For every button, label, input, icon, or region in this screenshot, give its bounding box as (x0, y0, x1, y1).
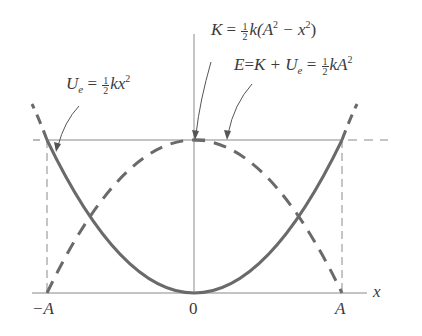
minus-x-term: − x (278, 20, 306, 39)
k-a-term: k(A (249, 20, 273, 39)
e-symbol: E (234, 55, 244, 74)
frac-den: 2 (241, 32, 248, 41)
potential-curve-ext-right (342, 104, 357, 140)
potential-arrowhead-icon (54, 142, 61, 152)
close-paren: ) (311, 20, 317, 39)
total-arrowhead-icon (224, 130, 231, 140)
kinetic-energy-label: K = 12k(A2 − x2) (211, 20, 316, 41)
exp: 2 (125, 73, 130, 84)
kx-term: kx (110, 74, 125, 93)
potential-curve-ext-left (32, 104, 47, 140)
k-plus-u-term: K + U (254, 55, 298, 74)
equals: = (227, 20, 237, 39)
half-fraction: 12 (322, 57, 329, 76)
x-axis-label: x (373, 282, 381, 302)
total-energy-label: E=K + Ue = 12kA2 (234, 55, 353, 76)
energy-diagram (0, 0, 422, 336)
total-arrow (228, 84, 252, 134)
tick-minus-a: −A (32, 299, 54, 319)
half-fraction: 12 (102, 76, 109, 95)
u-subscript: e (78, 83, 83, 95)
equals: = (307, 55, 317, 74)
exp: 2 (348, 54, 353, 65)
tick-a: A (335, 299, 345, 319)
tick-zero: 0 (189, 299, 198, 319)
kinetic-arrow (196, 62, 211, 134)
u-symbol: U (66, 74, 78, 93)
k-symbol: K (211, 20, 222, 39)
u-subscript: e (298, 64, 303, 76)
equals: = (87, 74, 97, 93)
frac-den: 2 (322, 67, 329, 76)
ka-term: kA (330, 55, 348, 74)
equals: = (244, 55, 254, 74)
frac-den: 2 (102, 86, 109, 95)
half-fraction: 12 (241, 22, 248, 41)
potential-energy-label: Ue = 12kx2 (66, 74, 130, 95)
